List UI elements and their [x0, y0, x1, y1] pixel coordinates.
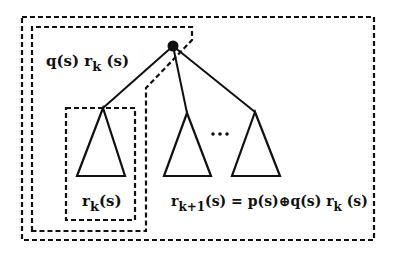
- ellipsis-icon: [211, 132, 229, 136]
- tree-diagram: q(s) rk (s) rk(s) rk+1(s) = p(s)⊕q(s) rk…: [0, 0, 395, 255]
- root-node: [168, 41, 179, 52]
- recurrence-label: rk+1(s) = p(s)⊕q(s) rk (s): [171, 193, 368, 214]
- subtree-term-label: rk(s): [82, 192, 122, 214]
- diagram-canvas: q(s) rk (s) rk(s) rk+1(s) = p(s)⊕q(s) rk…: [0, 0, 395, 255]
- subtree-1-triangle: [77, 108, 125, 176]
- outer-term-label: q(s) rk (s): [46, 52, 129, 74]
- subtree-3-triangle: [232, 112, 280, 176]
- subtree-2-triangle: [164, 113, 211, 176]
